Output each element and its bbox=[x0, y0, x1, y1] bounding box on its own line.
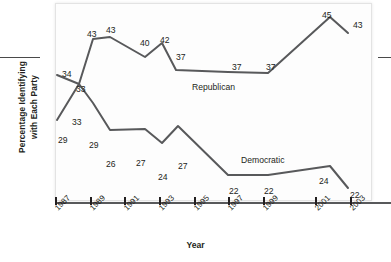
republican-value-label: 43 bbox=[87, 29, 97, 39]
x-axis-line bbox=[55, 202, 391, 204]
y-axis-title-line-2: with Each Party bbox=[28, 22, 40, 192]
democratic-value-label: 27 bbox=[178, 161, 188, 171]
chart-figure: Percentage Identifying with Each Party 3… bbox=[0, 0, 391, 262]
republican-value-label: 42 bbox=[160, 35, 170, 45]
x-axis-title: Year bbox=[0, 240, 391, 250]
y-axis-title-line-1: Percentage Identifying bbox=[16, 22, 28, 192]
republican-value-label: 33 bbox=[76, 84, 86, 94]
democratic-series-label: Democratic bbox=[241, 155, 284, 165]
democratic-value-label: 27 bbox=[136, 158, 146, 168]
republican-value-label: 37 bbox=[176, 52, 186, 62]
republican-series-label: Republican bbox=[192, 82, 235, 92]
republican-value-label: 34 bbox=[62, 69, 72, 79]
democratic-value-label: 24 bbox=[319, 176, 329, 186]
page-rule-right bbox=[378, 57, 391, 58]
plot-area bbox=[55, 3, 372, 201]
republican-value-label: 37 bbox=[232, 62, 242, 72]
democratic-value-label: 29 bbox=[89, 140, 99, 150]
democratic-value-label: 26 bbox=[106, 159, 116, 169]
y-axis-title: Percentage Identifying with Each Party bbox=[16, 22, 40, 192]
democratic-value-label: 24 bbox=[158, 172, 168, 182]
republican-value-label: 45 bbox=[322, 10, 332, 20]
republican-value-label: 37 bbox=[266, 62, 276, 72]
democratic-value-label: 33 bbox=[72, 117, 82, 127]
republican-value-label: 43 bbox=[106, 25, 116, 35]
republican-value-label: 40 bbox=[140, 38, 150, 48]
democratic-value-label: 29 bbox=[58, 135, 68, 145]
republican-value-label: 43 bbox=[353, 20, 363, 30]
